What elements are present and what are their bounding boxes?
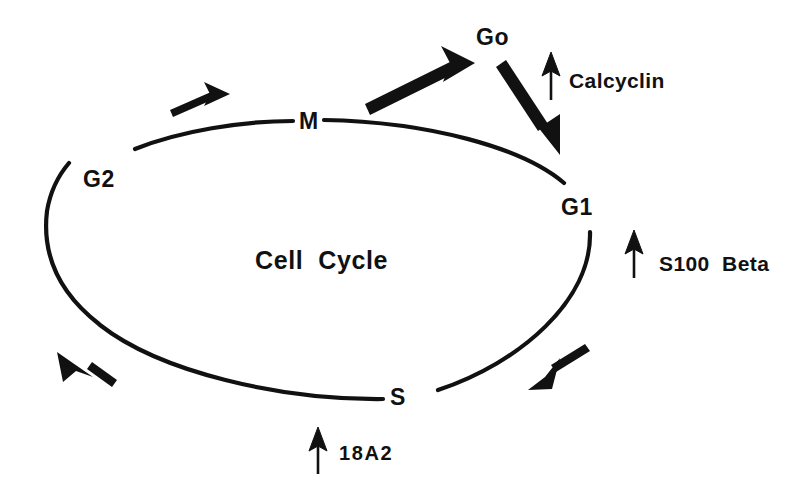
arrow-g2-to-m-icon [170,82,230,117]
phase-label-s: S [390,386,406,409]
phase-label-g1: G1 [561,196,593,219]
arrow-s-to-g2-icon [57,352,117,387]
arrow-g1-to-s-icon [528,344,590,390]
cell-cycle-diagram: M G2 G1 S Go Cell Cycle Calcyclin S100 B… [0,0,806,500]
phase-label-go: Go [476,26,509,49]
regulator-label-s100-beta: S100 Beta [659,253,769,274]
s100beta-up-arrow-icon [625,230,643,278]
phase-label-m: M [299,110,319,133]
regulator-label-18a2: 18A2 [339,443,393,463]
cycle-direction-arrows [57,82,590,390]
arc-g2-to-m [135,121,293,149]
phase-label-g2: G2 [83,168,115,191]
diagram-canvas [0,0,806,500]
regulator-label-calcyclin: Calcyclin [569,70,665,91]
arc-g1-to-s [438,232,590,390]
arc-m-to-g1 [324,120,564,183]
arc-s-to-bottom-left [100,325,383,399]
a18a2-up-arrow-icon [309,427,327,474]
arrow-m-to-go-icon [365,46,475,115]
center-title: Cell Cycle [255,248,388,273]
calcyclin-up-arrow-icon [542,52,560,100]
